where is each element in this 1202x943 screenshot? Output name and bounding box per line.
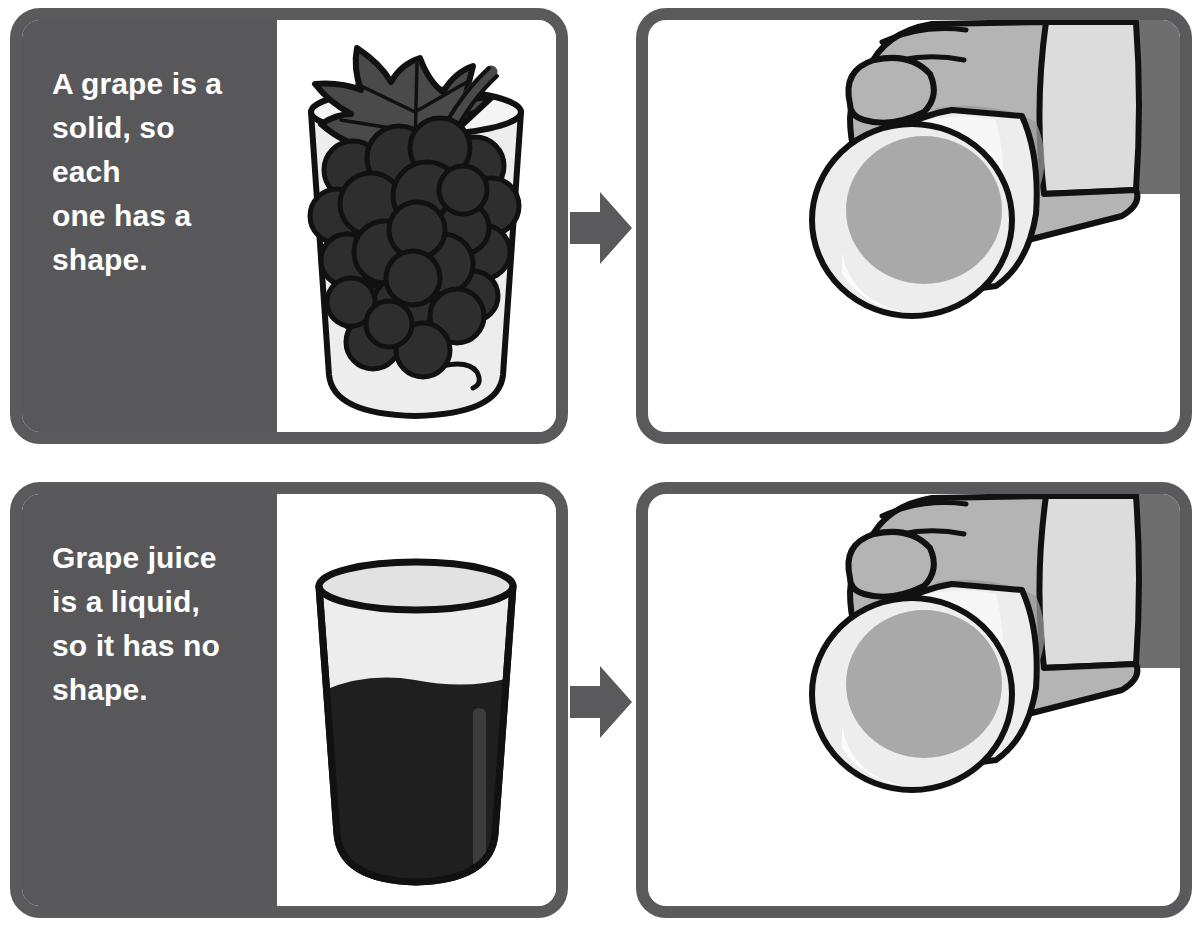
liquid-arrow — [570, 660, 634, 744]
liquid-right-card — [636, 482, 1192, 918]
row-solid: A grape is a solid, so each one has a sh… — [0, 8, 1202, 448]
grapes-in-glass-illustration — [277, 20, 556, 432]
liquid-caption-line-2: is a liquid, — [52, 580, 251, 624]
liquid-caption-pane: Grape juice is a liquid, so it has no sh… — [22, 494, 277, 906]
liquid-caption-line-4: shape. — [52, 668, 251, 712]
solid-arrow — [570, 186, 634, 270]
hand-tipping-glass-with-grapes-illustration — [636, 8, 1192, 444]
solid-caption-pane: A grape is a solid, so each one has a sh… — [22, 20, 277, 432]
solid-caption-line-3: one has a — [52, 194, 251, 238]
grape-juice-in-glass-illustration — [277, 494, 556, 906]
solid-right-card — [636, 8, 1192, 444]
diagram-page: A grape is a solid, so each one has a sh… — [0, 0, 1202, 943]
solid-caption-line-4: shape. — [52, 238, 251, 282]
row-liquid: Grape juice is a liquid, so it has no sh… — [0, 482, 1202, 922]
solid-caption-line-2: solid, so each — [52, 106, 251, 194]
solid-caption-line-1: A grape is a — [52, 62, 251, 106]
liquid-caption-line-3: so it has no — [52, 624, 251, 668]
liquid-left-card: Grape juice is a liquid, so it has no sh… — [10, 482, 568, 918]
hand-tipping-glass-with-juice-illustration — [636, 482, 1192, 918]
liquid-caption-line-1: Grape juice — [52, 536, 251, 580]
solid-left-card: A grape is a solid, so each one has a sh… — [10, 8, 568, 444]
